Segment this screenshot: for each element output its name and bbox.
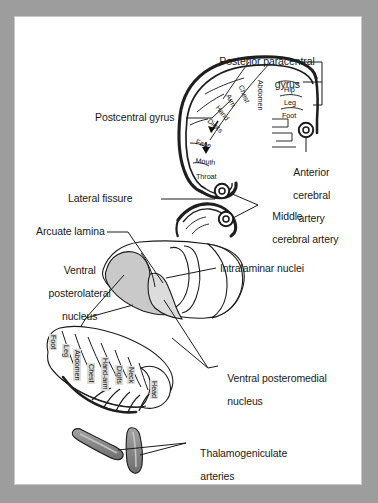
- thalamic-label-leg: Leg: [62, 344, 70, 358]
- thalamic-label-abdomen: Abdomen: [73, 349, 81, 381]
- leader-middle-cerebral-artery: [230, 193, 258, 218]
- anterior-cerebral-artery-line1: Anterior: [293, 166, 329, 178]
- homunculus-label-abdomen: Abdomen: [256, 80, 264, 110]
- homunculus-label-throat: Throat: [196, 173, 216, 181]
- vpl-line1: Ventral: [64, 264, 96, 276]
- middle-cerebral-artery-label: Middle cerebral artery: [261, 199, 338, 257]
- homunculus-label-hip: Hip: [284, 86, 295, 94]
- thalamogeniculate-artery-right: [126, 428, 142, 473]
- arcuate-lamina-label: Arcuate lamina: [36, 226, 105, 238]
- homunculus-label-foot: Foot: [282, 112, 296, 120]
- middle-cerebral-artery-upper-lumen: [219, 188, 225, 194]
- ventral-posterolateral-nucleus-label: Ventral posterolateral nucleus: [24, 253, 124, 334]
- postcentral-gyrus-label: Postcentral gyrus: [95, 112, 174, 124]
- figure-root: Posterior paracentral gyrus Postcentral …: [0, 0, 378, 503]
- middle-cerebral-artery-lower-lumen: [223, 216, 229, 222]
- thalamogeniculate-line2: arteries: [200, 470, 234, 482]
- vpm-line2: nucleus: [227, 395, 263, 407]
- temporal-sulcus-1: [186, 217, 206, 229]
- homunculus-label-mouth: Mouth: [195, 157, 215, 167]
- vpm-line1: Ventral posteromedial: [227, 372, 326, 384]
- vpl-line2: posterolateral: [49, 287, 111, 299]
- middle-cerebral-artery-line1: Middle: [272, 210, 302, 222]
- temporal-sulcus-2: [192, 224, 209, 234]
- lateral-fissure-label: Lateral fissure: [68, 193, 132, 205]
- sulcus-line-foot: [281, 108, 303, 110]
- intralaminar-nuclei-label: Intralaminar nuclei: [220, 263, 304, 275]
- medial-gyral-foldings: [272, 119, 296, 147]
- thalamic-label-neck: Neck: [127, 366, 135, 384]
- thalamic-label-digits: Digits: [115, 365, 123, 385]
- anterior-cerebral-artery-lumen: [303, 127, 309, 133]
- thalamogeniculate-line1: Thalamogeniculate: [200, 447, 287, 459]
- ventral-posteromedial-nucleus-label: Ventral posteromedial nucleus: [216, 361, 327, 419]
- temporal-tip: [177, 220, 179, 237]
- middle-cerebral-artery-line2: cerebral artery: [272, 233, 338, 245]
- vpl-line3: nucleus: [62, 310, 98, 322]
- thalamogeniculate-artery-left: [72, 429, 123, 460]
- posterior-paracentral-gyrus-line1: Posterior paracentral: [219, 55, 314, 67]
- thalamic-label-head: Head: [150, 380, 158, 399]
- thalamic-label-foot: Foot: [49, 334, 57, 350]
- thalamic-label-hand-arm: Hand-arm: [101, 357, 109, 391]
- thalamogeniculate-arteries-label: Thalamogeniculate arteries: [189, 436, 287, 494]
- thalamic-label-chest: Chest: [87, 363, 95, 384]
- homunculus-label-leg: Leg: [284, 99, 296, 107]
